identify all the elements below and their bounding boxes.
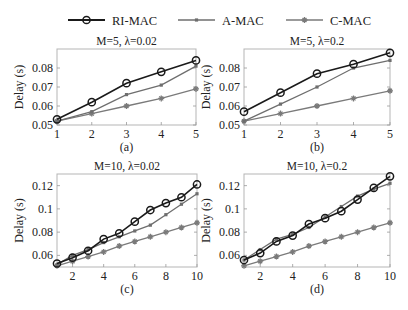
x-tick-label: 6 bbox=[322, 269, 328, 283]
star-marker bbox=[302, 17, 308, 23]
square-marker bbox=[242, 120, 245, 123]
square-marker bbox=[388, 182, 391, 185]
square-marker bbox=[125, 93, 128, 96]
square-marker bbox=[149, 224, 152, 227]
y-axis-label: Delay (s) bbox=[199, 65, 213, 109]
y-tick-label: 0.06 bbox=[219, 99, 240, 113]
y-tick-label: 0.08 bbox=[32, 61, 53, 75]
x-tick-label: 4 bbox=[158, 127, 164, 141]
y-tick-label: 0.08 bbox=[32, 225, 53, 239]
y-tick-label: 0.12 bbox=[219, 179, 240, 193]
chart-panel-d: M=10, λ=0.20.060.080.10.12246810Delay (s… bbox=[199, 160, 396, 296]
y-tick-label: 0.12 bbox=[32, 179, 53, 193]
y-tick-label: 0.06 bbox=[32, 99, 53, 113]
square-marker bbox=[194, 65, 197, 68]
panel-title: M=5, λ=0.2 bbox=[290, 35, 345, 48]
panel-caption: (a) bbox=[120, 140, 133, 154]
figure-canvas: RI-MACA-MACC-MAC M=5, λ=0.020.050.060.07… bbox=[0, 0, 408, 310]
panel-title: M=10, λ=0.2 bbox=[287, 160, 348, 173]
x-tick-label: 10 bbox=[384, 269, 396, 283]
x-tick-label: 5 bbox=[387, 127, 393, 141]
legend: RI-MACA-MACC-MAC bbox=[68, 14, 371, 28]
chart-panel-b: M=5, λ=0.20.050.060.070.0812345Delay (s)… bbox=[199, 35, 394, 154]
square-marker bbox=[315, 85, 318, 88]
x-tick-label: 2 bbox=[70, 269, 76, 283]
square-marker bbox=[279, 103, 282, 106]
chart-panel-a: M=5, λ=0.020.050.060.070.0812345Delay (s… bbox=[12, 35, 200, 154]
square-marker bbox=[133, 229, 136, 232]
x-tick-label: 4 bbox=[101, 269, 107, 283]
panel-title: M=5, λ=0.02 bbox=[96, 35, 157, 48]
x-tick-label: 5 bbox=[193, 127, 199, 141]
y-tick-label: 0.07 bbox=[32, 80, 53, 94]
y-tick-label: 0.1 bbox=[225, 202, 240, 216]
x-tick-label: 6 bbox=[132, 269, 138, 283]
y-tick-label: 0.06 bbox=[219, 248, 240, 262]
y-tick-label: 0.05 bbox=[32, 118, 53, 132]
x-tick-label: 2 bbox=[278, 127, 284, 141]
panel-caption: (b) bbox=[310, 140, 324, 154]
x-tick-label: 2 bbox=[257, 269, 263, 283]
square-marker bbox=[388, 59, 391, 62]
legend-item-c-mac: C-MAC bbox=[286, 14, 371, 28]
legend-label: A-MAC bbox=[222, 14, 264, 28]
square-marker bbox=[195, 18, 198, 21]
legend-item-a-mac: A-MAC bbox=[178, 14, 264, 28]
x-tick-label: 3 bbox=[314, 127, 320, 141]
y-tick-label: 0.07 bbox=[219, 80, 240, 94]
square-marker bbox=[180, 203, 183, 206]
y-tick-label: 0.06 bbox=[32, 248, 53, 262]
panel-caption: (c) bbox=[120, 282, 133, 296]
figure: RI-MACA-MACC-MAC M=5, λ=0.020.050.060.07… bbox=[0, 0, 408, 310]
square-marker bbox=[160, 84, 163, 87]
y-tick-label: 0.08 bbox=[219, 225, 240, 239]
x-tick-label: 8 bbox=[355, 269, 361, 283]
chart-panels: M=5, λ=0.020.050.060.070.0812345Delay (s… bbox=[12, 35, 396, 296]
x-tick-label: 1 bbox=[54, 127, 60, 141]
legend-label: C-MAC bbox=[330, 14, 371, 28]
square-marker bbox=[164, 213, 167, 216]
y-axis-label: Delay (s) bbox=[199, 198, 213, 242]
y-tick-label: 0.1 bbox=[38, 202, 53, 216]
y-axis-label: Delay (s) bbox=[12, 198, 26, 242]
x-tick-label: 4 bbox=[290, 269, 296, 283]
x-tick-label: 2 bbox=[89, 127, 95, 141]
square-marker bbox=[195, 192, 198, 195]
chart-panel-c: M=10, λ=0.020.060.080.10.12246810Delay (… bbox=[12, 160, 203, 296]
x-tick-label: 8 bbox=[163, 269, 169, 283]
x-tick-label: 4 bbox=[351, 127, 357, 141]
x-tick-label: 10 bbox=[191, 269, 203, 283]
legend-label: RI-MAC bbox=[112, 14, 157, 28]
x-tick-label: 3 bbox=[124, 127, 130, 141]
legend-item-ri-mac: RI-MAC bbox=[68, 14, 157, 28]
panel-caption: (d) bbox=[310, 282, 324, 296]
panel-title: M=10, λ=0.02 bbox=[94, 160, 160, 173]
x-tick-label: 1 bbox=[241, 127, 247, 141]
y-tick-label: 0.05 bbox=[219, 118, 240, 132]
y-axis-label: Delay (s) bbox=[12, 65, 26, 109]
square-marker bbox=[90, 110, 93, 113]
y-tick-label: 0.08 bbox=[219, 61, 240, 75]
